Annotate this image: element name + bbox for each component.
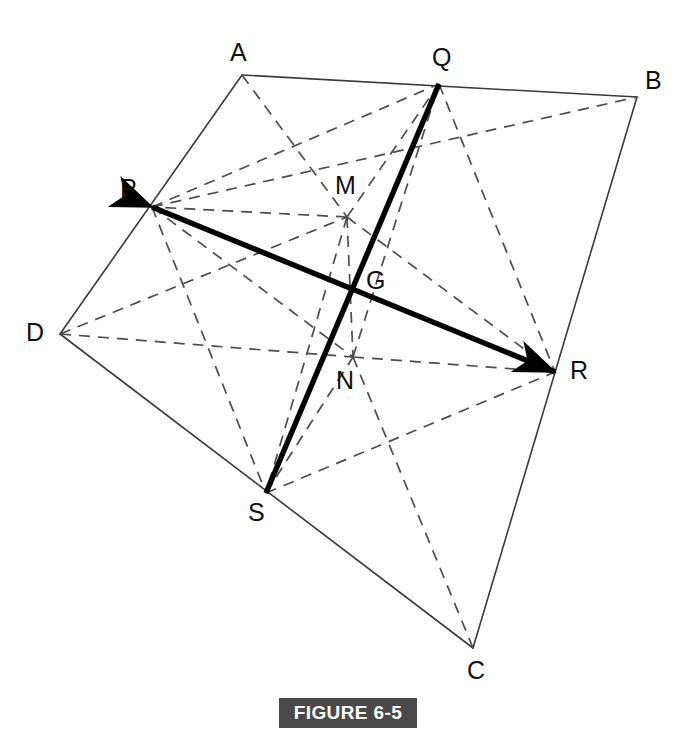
label-M: M: [335, 173, 356, 198]
label-C: C: [467, 658, 485, 683]
figure-caption-text: FIGURE 6-5: [294, 702, 403, 724]
dash-N-Q: [353, 84, 439, 357]
dash-M-P: [152, 207, 347, 217]
label-A: A: [230, 40, 247, 65]
dashed-construction-lines: [60, 75, 637, 648]
label-S: S: [248, 500, 265, 525]
figure-container: A B C D P Q R S M N G FIGURE 6-5: [0, 0, 697, 753]
bold-median-segments: [152, 84, 555, 493]
label-D: D: [26, 320, 44, 345]
dash-N-C: [353, 357, 473, 648]
outer-quadrilateral: [60, 75, 637, 648]
segment-PR: [152, 207, 555, 372]
label-Q: Q: [432, 45, 451, 70]
label-R: R: [570, 358, 588, 383]
dash-D-M: [60, 217, 347, 334]
dash-M-R: [347, 217, 555, 372]
dash-P-S: [152, 207, 266, 493]
figure-caption-band: FIGURE 6-5: [279, 698, 417, 728]
label-N: N: [336, 368, 354, 393]
label-G: G: [366, 268, 385, 293]
label-P: P: [120, 176, 137, 201]
edge-DA: [60, 75, 242, 334]
label-B: B: [645, 68, 662, 93]
